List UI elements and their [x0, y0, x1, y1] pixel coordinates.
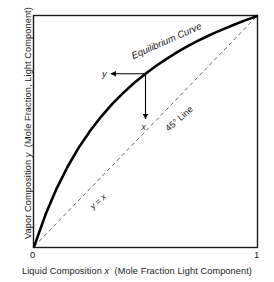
y-axis-label-variable: y	[23, 152, 33, 157]
x-axis-label-suffix: (Mole Fraction Light Component)	[115, 266, 252, 276]
x-axis-label-variable: x	[105, 266, 110, 276]
liquid-composition-x-marker: x	[141, 122, 147, 132]
vle-equilibrium-chart: Equilibrium Curve 45° Line y = x y x 0 1…	[0, 0, 274, 282]
x-axis-tick-0: 0	[30, 249, 35, 260]
x-axis-tick-1: 1	[254, 249, 259, 260]
plot-canvas: Equilibrium Curve 45° Line y = x y x	[0, 0, 274, 282]
y-axis-label-prefix: Vapor Composition	[23, 160, 33, 239]
x-axis-label: Liquid Composition x (Mole Fraction Ligh…	[0, 266, 274, 276]
y-axis-label: Vapor Composition y (Mole Fraction, Ligh…	[23, 5, 33, 241]
x-axis-label-prefix: Liquid Composition	[22, 266, 102, 276]
y-axis-label-suffix: (Mole Fraction, Light Component)	[23, 7, 33, 147]
